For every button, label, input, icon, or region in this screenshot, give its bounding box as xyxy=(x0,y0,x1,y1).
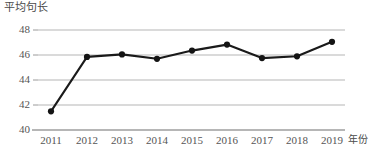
y-tick-label-42: 42 xyxy=(8,99,30,110)
data-markers xyxy=(48,39,335,115)
x-tick-label-2014: 2014 xyxy=(140,134,174,146)
x-tick-label-2019: 2019 xyxy=(315,134,349,146)
y-tick-label-44: 44 xyxy=(8,74,30,85)
data-point-2012 xyxy=(84,54,90,60)
data-point-2016 xyxy=(224,42,230,48)
y-tick-label-46: 46 xyxy=(8,49,30,60)
chart-figure: 平均句长 xyxy=(0,0,374,167)
x-tick-label-2013: 2013 xyxy=(105,134,139,146)
y-tick-label-40: 40 xyxy=(8,124,30,135)
data-point-2017 xyxy=(259,55,265,61)
data-point-2014 xyxy=(154,56,160,62)
data-point-2018 xyxy=(294,53,300,59)
x-tick-label-2012: 2012 xyxy=(70,134,104,146)
x-tick-label-2017: 2017 xyxy=(245,134,279,146)
data-point-2011 xyxy=(48,108,54,114)
y-tick-label-48: 48 xyxy=(8,24,30,35)
y-tick-marks xyxy=(33,30,38,105)
x-tick-label-2015: 2015 xyxy=(175,134,209,146)
x-tick-label-2016: 2016 xyxy=(210,134,244,146)
gridlines xyxy=(38,30,345,105)
x-axis-title: 年份 xyxy=(348,134,368,146)
x-tick-label-2011: 2011 xyxy=(34,134,68,146)
data-point-2019 xyxy=(329,39,335,45)
data-point-2015 xyxy=(189,48,195,54)
x-tick-label-2018: 2018 xyxy=(280,134,314,146)
data-point-2013 xyxy=(119,51,125,57)
